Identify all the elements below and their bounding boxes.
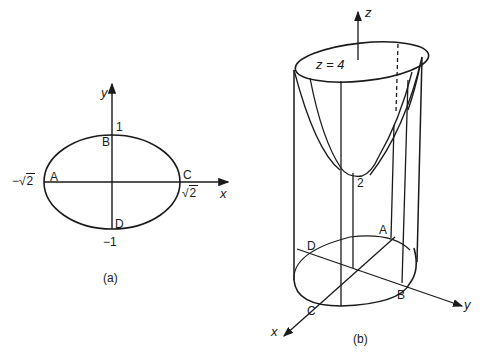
tick-x-right: √2 bbox=[182, 187, 198, 199]
tick-x-left-num: 2 bbox=[26, 173, 36, 188]
top-plane-label: z = 4 bbox=[316, 58, 345, 71]
y-axis-label-b: y bbox=[464, 298, 471, 311]
tick-x-right-num: 2 bbox=[189, 185, 199, 200]
point-B-a: B bbox=[102, 136, 110, 148]
vertex-label: 2 bbox=[357, 177, 364, 189]
caption-a: (a) bbox=[103, 272, 118, 284]
figure-a-graphics bbox=[44, 84, 228, 229]
tick-y-bottom: −1 bbox=[103, 236, 117, 248]
point-D-b: D bbox=[307, 240, 316, 252]
y-axis-b bbox=[297, 249, 462, 306]
cylinder-right-edge bbox=[417, 57, 422, 262]
y-axis-label-a: y bbox=[101, 86, 108, 99]
tick-x-right-prefix: √ bbox=[182, 186, 189, 200]
tick-y-top: 1 bbox=[116, 121, 123, 133]
tick-x-left: −√2 bbox=[12, 175, 35, 187]
point-A-a: A bbox=[50, 171, 58, 183]
x-axis-label-b: x bbox=[271, 325, 278, 338]
point-B-b: B bbox=[397, 289, 405, 301]
x-axis-label-a: x bbox=[220, 187, 227, 200]
point-D-a: D bbox=[115, 218, 124, 230]
point-C-b: C bbox=[307, 305, 316, 317]
caption-b: (b) bbox=[353, 333, 368, 345]
figure-b-graphics bbox=[284, 12, 462, 336]
point-C-a: C bbox=[183, 169, 192, 181]
diagram-svg bbox=[0, 0, 480, 353]
diagram-canvas: y x 1 −1 −√2 √2 A B C D (a) z z = 4 2 A … bbox=[0, 0, 480, 353]
dashed-back-line bbox=[396, 44, 398, 112]
x-axis-b bbox=[284, 237, 395, 336]
tick-x-left-prefix: −√ bbox=[12, 174, 26, 188]
parabola-bottom bbox=[341, 158, 378, 176]
z-axis-label-b: z bbox=[365, 6, 372, 19]
point-A-b: A bbox=[379, 224, 387, 236]
parabola-left-inner bbox=[310, 78, 341, 168]
vertical-B bbox=[402, 80, 408, 283]
